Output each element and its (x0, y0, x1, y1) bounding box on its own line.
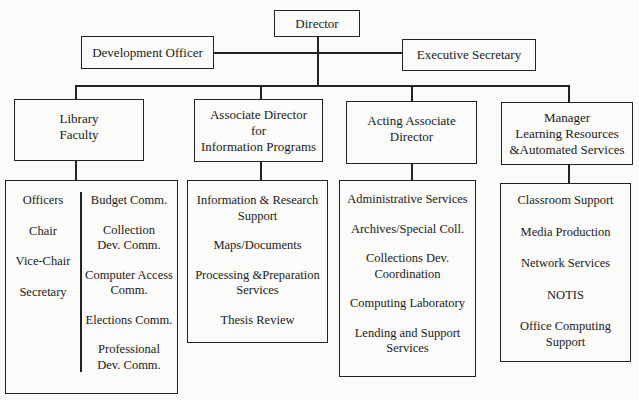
list-item: Lending and Support Services (355, 326, 461, 357)
list-item: Collection Dev. Comm. (97, 223, 160, 254)
connector (260, 161, 262, 180)
list-item: Maps/Documents (213, 238, 301, 254)
connector (75, 85, 569, 87)
director-box: Director (274, 10, 360, 37)
list-item: Information & Research Support (197, 193, 318, 224)
acting-associate-director-label: Acting Associate Director (367, 113, 455, 145)
list-item: Media Production (521, 225, 611, 241)
list-item: Thesis Review (221, 313, 295, 329)
executive-secretary-label: Executive Secretary (417, 47, 521, 63)
officers-list: Officers Chair Vice-Chair Secretary (10, 193, 76, 300)
information-programs-list: Information & Research Support Maps/Docu… (188, 193, 327, 328)
development-officer-box: Development Officer (81, 36, 214, 69)
library-faculty-box: Library Faculty (14, 99, 144, 161)
list-item: Archives/Special Coll. (351, 222, 464, 238)
list-item: Budget Comm. (91, 193, 167, 209)
associate-director-label: Associate Director for Information Progr… (201, 107, 316, 155)
list-item: Processing &Preparation Services (195, 268, 320, 299)
committees-list: Budget Comm. Collection Dev. Comm. Compu… (82, 193, 176, 373)
manager-box: Manager Learning Resources &Automated Se… (501, 102, 633, 165)
list-item: Chair (29, 224, 57, 240)
executive-secretary-box: Executive Secretary (402, 39, 536, 71)
list-item: NOTIS (547, 288, 584, 304)
list-item: Administrative Services (347, 192, 467, 208)
manager-label: Manager Learning Resources &Automated Se… (509, 110, 624, 158)
list-item: Elections Comm. (86, 313, 173, 329)
list-item: Collections Dev. Coordination (366, 251, 449, 282)
list-item: Computer Access Comm. (85, 268, 173, 299)
connector (568, 164, 570, 183)
development-officer-label: Development Officer (92, 45, 203, 61)
associate-director-box: Associate Director for Information Progr… (194, 99, 323, 162)
list-item: Professional Dev. Comm. (97, 342, 160, 373)
list-item: Classroom Support (517, 193, 613, 209)
connector (317, 36, 319, 86)
director-label: Director (295, 16, 338, 32)
list-item: Officers (23, 193, 64, 209)
connector (568, 85, 570, 102)
learning-resources-list: Classroom Support Media Production Netwo… (501, 193, 630, 350)
list-item: Office Computing Support (520, 319, 611, 350)
list-item: Secretary (19, 285, 66, 301)
acting-associate-list: Administrative Services Archives/Special… (340, 192, 475, 357)
connector (411, 85, 413, 101)
list-item: Network Services (521, 256, 610, 272)
connector (75, 85, 77, 99)
connector (260, 85, 262, 99)
list-item: Vice-Chair (16, 254, 71, 270)
connector (75, 160, 77, 180)
list-item: Computing Laboratory (350, 296, 465, 312)
org-chart: Director Development Officer Executive S… (0, 0, 639, 400)
acting-associate-director-box: Acting Associate Director (346, 101, 477, 164)
connector (411, 163, 413, 180)
library-faculty-label: Library Faculty (60, 111, 99, 143)
connector (213, 52, 402, 54)
